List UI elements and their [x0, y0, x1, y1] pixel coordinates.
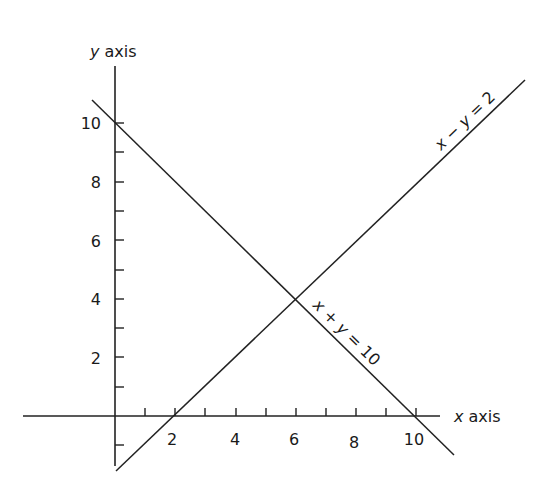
y-tick-label-10: 10 [81, 114, 101, 133]
label-x-plus-y-10: x + y = 10 [308, 295, 384, 370]
label-x-minus-y-2: x − y = 2 [430, 87, 499, 154]
x-tick-label-2: 2 [167, 430, 177, 449]
y-axis-ticks [115, 123, 124, 445]
line-x-plus-y-10 [92, 100, 454, 455]
x-tick-label-10: 10 [404, 430, 424, 449]
y-axis-title: y axis [89, 42, 137, 61]
x-tick-label-8: 8 [349, 433, 359, 452]
x-tick-label-4: 4 [230, 430, 240, 449]
x-axis-title: x axis [453, 407, 501, 426]
y-tick-label-4: 4 [91, 290, 101, 309]
linear-equations-graph: 2 4 6 8 10 2 4 6 8 10 y axis x axis x + … [0, 0, 543, 502]
y-tick-label-8: 8 [91, 173, 101, 192]
y-tick-label-2: 2 [91, 349, 101, 368]
y-tick-label-6: 6 [91, 232, 101, 251]
x-axis-ticks [145, 408, 416, 416]
x-tick-label-6: 6 [289, 430, 299, 449]
